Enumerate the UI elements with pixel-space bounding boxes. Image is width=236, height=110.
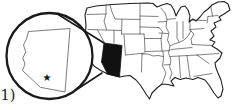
locator-map-canvas: ★ 1) xyxy=(0,0,236,110)
star-marker: ★ xyxy=(43,72,52,83)
figure-locator-map: ★ 1) xyxy=(0,0,236,110)
figure-label: 1) xyxy=(1,87,16,103)
